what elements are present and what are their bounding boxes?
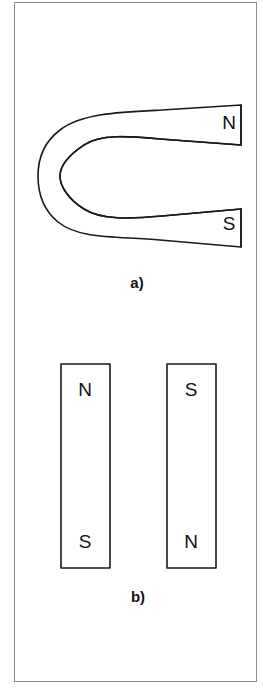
magnets-diagram: N S a) N S S N b) xyxy=(0,0,263,688)
bar-magnets-group: N S S N xyxy=(61,364,216,568)
horseshoe-outer-body xyxy=(38,105,241,247)
horseshoe-north-pole-label: N xyxy=(222,112,236,133)
panel-a-caption: a) xyxy=(130,274,143,291)
horseshoe-south-pole-label: S xyxy=(223,213,236,234)
right-bar-south-pole-label: S xyxy=(185,379,198,400)
figure-page: N S a) N S S N b) xyxy=(0,0,263,688)
horseshoe-magnet: N S xyxy=(38,105,241,247)
left-bar-south-pole-label: S xyxy=(79,531,92,552)
panel-b-caption: b) xyxy=(131,588,145,605)
right-bar-north-pole-label: N xyxy=(184,531,198,552)
left-bar-north-pole-label: N xyxy=(78,379,92,400)
horseshoe-inner-bore xyxy=(60,137,241,218)
